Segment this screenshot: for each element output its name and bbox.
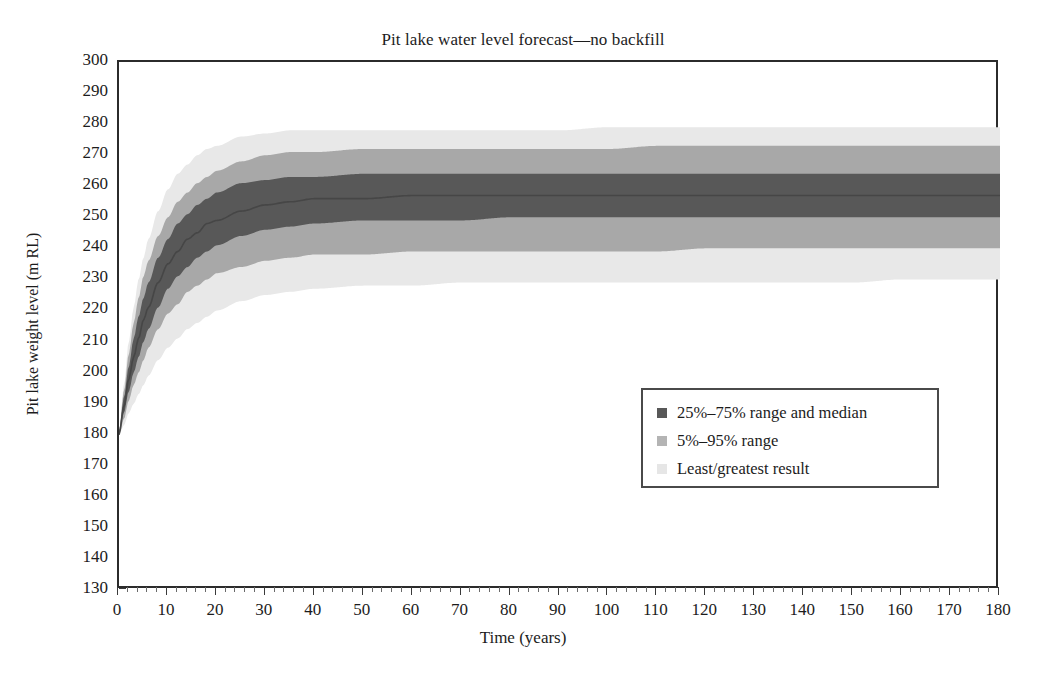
y-tick-label: 280 [52,113,108,130]
x-tick-minor [861,587,862,592]
x-tick-minor [489,587,490,592]
y-tick-label: 170 [52,455,108,472]
x-tick-mark [509,587,510,595]
x-tick-mark [362,587,363,595]
x-tick-minor [812,587,813,592]
x-tick-mark [900,587,901,595]
x-tick-minor [420,587,421,592]
x-tick-mark [411,587,412,595]
x-tick-minor [734,587,735,592]
x-tick-minor [293,587,294,592]
x-tick-minor [675,587,676,592]
x-tick-mark [753,587,754,595]
x-tick-mark [117,587,118,595]
x-tick-minor [665,587,666,592]
y-tick-label: 140 [52,548,108,565]
y-axis-label-container: Pit lake weight level (m RL) [18,60,48,588]
x-tick-minor [890,587,891,592]
y-tick-label: 250 [52,206,108,223]
x-tick-minor [137,587,138,592]
forecast-band-plot [119,62,1000,590]
legend-item: Least/greatest result [657,455,937,483]
legend-swatch-icon [657,436,667,446]
x-tick-mark [460,587,461,595]
plot-area [117,60,998,588]
x-tick-minor [714,587,715,592]
x-tick-minor [352,587,353,592]
x-tick-minor [929,587,930,592]
x-tick-minor [969,587,970,592]
x-tick-minor [763,587,764,592]
x-tick-mark [166,587,167,595]
x-tick-minor [959,587,960,592]
x-axis-label: Time (years) [0,628,1046,648]
x-tick-minor [528,587,529,592]
x-tick-minor [538,587,539,592]
x-tick-mark [802,587,803,595]
legend-item: 25%–75% range and median [657,399,937,427]
x-tick-minor [792,587,793,592]
x-tick-minor [910,587,911,592]
x-tick-minor [195,587,196,592]
x-tick-minor [323,587,324,592]
x-tick-minor [440,587,441,592]
y-tick-label: 260 [52,175,108,192]
legend-swatch-icon [657,408,667,418]
x-tick-minor [939,587,940,592]
x-tick-minor [381,587,382,592]
x-tick-minor [616,587,617,592]
x-tick-minor [597,587,598,592]
x-tick-mark [558,587,559,595]
legend-label: Least/greatest result [677,459,809,479]
x-tick-minor [783,587,784,592]
y-tick-label: 210 [52,331,108,348]
x-tick-minor [332,587,333,592]
x-tick-minor [978,587,979,592]
y-tick-label: 190 [52,393,108,410]
y-tick-label: 220 [52,299,108,316]
y-tick-label: 200 [52,362,108,379]
x-tick-minor [186,587,187,592]
x-tick-minor [587,587,588,592]
x-tick-minor [450,587,451,592]
y-tick-label: 230 [52,268,108,285]
x-tick-minor [205,587,206,592]
x-tick-minor [773,587,774,592]
x-tick-minor [469,587,470,592]
x-tick-mark [606,587,607,595]
x-tick-mark [215,587,216,595]
x-tick-minor [685,587,686,592]
y-tick-label: 160 [52,486,108,503]
x-tick-minor [548,587,549,592]
x-tick-minor [646,587,647,592]
x-tick-minor [822,587,823,592]
x-tick-mark [949,587,950,595]
legend-label: 25%–75% range and median [677,403,867,423]
x-tick-minor [695,587,696,592]
x-tick-minor [372,587,373,592]
x-tick-mark [264,587,265,595]
y-axis-label: Pit lake weight level (m RL) [24,233,42,416]
x-tick-minor [391,587,392,592]
x-tick-minor [146,587,147,592]
x-tick-minor [127,587,128,592]
x-tick-minor [244,587,245,592]
x-tick-label: 180 [968,601,1028,618]
x-tick-minor [499,587,500,592]
x-tick-minor [724,587,725,592]
x-tick-minor [881,587,882,592]
x-tick-mark [998,587,999,595]
x-tick-mark [313,587,314,595]
chart-figure: Pit lake water level forecast—no backfil… [0,0,1046,686]
x-tick-mark [851,587,852,595]
y-tick-label: 300 [52,51,108,68]
y-tick-label: 240 [52,237,108,254]
x-tick-minor [156,587,157,592]
x-tick-minor [518,587,519,592]
x-tick-minor [577,587,578,592]
x-tick-minor [283,587,284,592]
x-tick-minor [303,587,304,592]
x-tick-mark [655,587,656,595]
x-tick-minor [871,587,872,592]
x-tick-minor [274,587,275,592]
